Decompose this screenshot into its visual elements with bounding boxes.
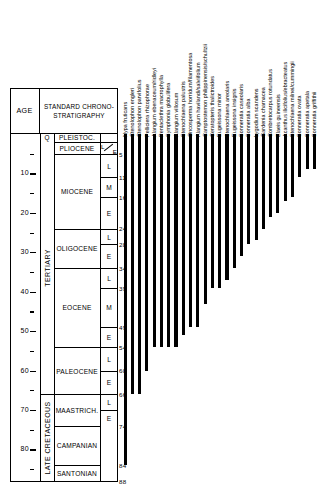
taxon-range-bar [153, 134, 156, 347]
taxon-range-bar [284, 134, 287, 201]
taxon-range-bar [291, 134, 294, 197]
taxon-range-bar [262, 134, 265, 229]
taxon-range-bar [269, 134, 272, 217]
taxon-label: Lygodium scandens [253, 88, 259, 137]
taxon-label: Sonneratia caseolaris [238, 84, 244, 137]
taxon-range-bar [306, 134, 309, 169]
stratigraphic-range-chart: AGE STANDARD CHRONO-STRATIGRAPHY TERTIAR… [0, 0, 329, 498]
taxon-label: Stenochlaena palustris [180, 81, 186, 137]
taxon-range-bar [196, 134, 199, 327]
taxon-label: Gardenia charnacea [260, 87, 266, 137]
taxon-label: Ctenolophon parvifolius [136, 80, 142, 138]
taxon-range-bar [211, 134, 214, 288]
taxon-range-bar [218, 134, 221, 288]
taxon-range-bar [276, 134, 279, 213]
taxon-range-bar [298, 134, 301, 177]
taxon-label: Ctenolophon engleri [129, 88, 135, 137]
taxon-label: Sonneratia apetala [304, 91, 310, 137]
taxon-range-bar [182, 134, 185, 335]
taxon-range-bar [247, 134, 250, 244]
taxon-label: Elaeis guineensis [275, 94, 281, 137]
taxon-label: Stenochlaena milnei/cummingii [289, 61, 295, 137]
taxon-label: Alangium ebenaceum/ridleyi [151, 68, 157, 137]
taxon-range-bar [167, 134, 170, 347]
taxon-label: Pelliciera rhizophorae [144, 84, 150, 137]
taxon-label: Alangium havilandi/salviifolium [195, 62, 201, 137]
taxon-range-bar [313, 134, 316, 169]
taxon-range-bar [138, 134, 141, 394]
taxon-label: Acanthus ilicifolius/ebracteatus [282, 62, 288, 137]
taxon-label: Sonneratia griffithii [311, 91, 317, 137]
taxon-label: Symphonia globulifera [165, 83, 171, 137]
taxon-label: Stenochlaena areolaris [224, 81, 230, 137]
taxon-label: Eugeissona minor [216, 93, 222, 137]
taxon-range-bar [255, 134, 258, 240]
taxon-range-bar [131, 134, 134, 394]
taxon-label: Oncosperma horridum/filamentosa [187, 53, 193, 137]
taxon-range-bar [204, 134, 207, 304]
taxon-label: Nypa fruticans [122, 102, 128, 137]
taxon-label: Combretocarpus rotundatus [267, 69, 273, 137]
taxon-label: Pentaclethra macrophylla [158, 75, 164, 137]
taxon-range-bar [174, 134, 177, 347]
taxon-range-bar [225, 134, 228, 280]
taxon-range-bar [189, 134, 192, 327]
taxon-range-bar [233, 134, 236, 268]
taxon-ranges: Nypa fruticansCtenolophon engleriCtenolo… [0, 0, 329, 498]
taxon-range-bar [240, 134, 243, 256]
taxon-range-bar [145, 134, 148, 371]
taxon-range-bar [124, 134, 127, 465]
taxon-label: Ceratopteris thalictroides [209, 76, 215, 137]
taxon-label: Camptostemon philippinensis/schultzii [202, 44, 208, 137]
taxon-label: Sonneratia ovata [296, 95, 302, 137]
taxon-label: Eugeissona insignis [231, 88, 237, 137]
taxon-range-bar [160, 134, 163, 347]
taxon-label: Alangium villosum [173, 93, 179, 137]
taxon-label: Sonneratia alba [245, 98, 251, 137]
